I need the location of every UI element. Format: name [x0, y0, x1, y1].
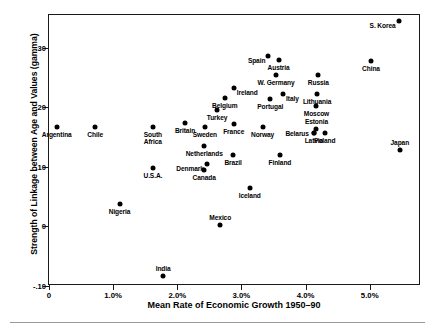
data-point[interactable]: [277, 152, 282, 157]
data-point-label: Belarus: [285, 130, 309, 137]
data-point[interactable]: [215, 107, 220, 112]
data-point[interactable]: [150, 166, 155, 171]
x-axis-tick: [370, 284, 371, 290]
data-point-label: Argentina: [42, 131, 72, 138]
data-point-label: Sweden: [193, 131, 217, 138]
data-point[interactable]: [274, 72, 279, 77]
footer-divider: [10, 322, 425, 323]
data-point-label: Russia: [308, 79, 329, 86]
data-point[interactable]: [247, 185, 252, 190]
data-point-label: Canada: [193, 174, 216, 181]
data-point-label: Finland: [269, 159, 292, 166]
data-point[interactable]: [268, 96, 273, 101]
x-axis-tick: [306, 284, 307, 290]
data-point[interactable]: [231, 152, 236, 157]
data-point[interactable]: [260, 124, 265, 129]
data-point[interactable]: [182, 121, 187, 126]
x-axis-tick-label: 0: [47, 291, 51, 300]
y-axis-tick-label: 0: [42, 222, 46, 231]
data-point[interactable]: [316, 72, 321, 77]
data-point[interactable]: [202, 167, 207, 172]
data-point-label: China: [362, 65, 380, 72]
data-point-label: Nigeria: [109, 208, 131, 215]
data-point[interactable]: [397, 148, 402, 153]
data-point[interactable]: [231, 121, 236, 126]
data-point-label: Turkey: [207, 114, 228, 121]
data-point[interactable]: [276, 58, 281, 63]
x-axis-tick: [113, 284, 114, 290]
data-point-label: U.S.A.: [143, 172, 162, 179]
data-point-label: W. Germany: [257, 79, 294, 86]
data-point[interactable]: [311, 130, 316, 135]
data-point[interactable]: [314, 103, 319, 108]
data-point-label: S. Korea: [370, 22, 396, 29]
data-point[interactable]: [54, 124, 59, 129]
data-point-label: Chile: [87, 131, 103, 138]
data-point[interactable]: [281, 91, 286, 96]
data-point-label: India: [156, 265, 171, 272]
x-axis-tick: [177, 284, 178, 290]
data-point[interactable]: [315, 91, 320, 96]
data-point-label: Brazil: [224, 159, 241, 166]
data-point-label: France: [223, 128, 244, 135]
data-point-label: SouthAfrica: [144, 131, 162, 146]
y-axis-label: Strength of Linkage between Age and Valu…: [29, 13, 39, 275]
data-point[interactable]: [150, 124, 155, 129]
data-point[interactable]: [161, 273, 166, 278]
data-point[interactable]: [204, 161, 209, 166]
x-axis-tick: [49, 284, 50, 290]
data-point-label: Estonia: [305, 118, 328, 125]
plot-frame: S. KoreaChinaSpainAustriaW. GermanyRussi…: [48, 14, 420, 285]
x-axis-tick-label: 4.0%: [297, 291, 315, 300]
data-point-label: Netherlands: [186, 150, 223, 157]
data-point[interactable]: [202, 144, 207, 149]
data-point[interactable]: [266, 54, 271, 59]
data-point[interactable]: [218, 222, 223, 227]
data-point[interactable]: [322, 130, 327, 135]
data-point-label: Ireland: [237, 89, 258, 96]
x-axis-tick: [241, 284, 242, 290]
data-point[interactable]: [222, 95, 227, 100]
data-point-label: Japan: [391, 139, 410, 146]
data-point-label: Mexico: [209, 214, 231, 221]
data-point-label: Iceland: [239, 192, 261, 199]
data-point-label: Italy: [286, 95, 299, 102]
data-point-label: Norway: [251, 131, 274, 138]
data-point[interactable]: [231, 85, 236, 90]
x-axis-tick-label: 2.0%: [168, 291, 186, 300]
data-point-label: Moscow: [304, 110, 329, 117]
data-point[interactable]: [117, 202, 122, 207]
x-axis-tick-label: 1.0%: [104, 291, 122, 300]
x-axis-tick-label: 3.0%: [233, 291, 251, 300]
x-axis-label: Mean Rate of Economic Growth 1950–90: [48, 300, 420, 310]
data-point[interactable]: [396, 18, 401, 23]
plot-area: S. KoreaChinaSpainAustriaW. GermanyRussi…: [49, 15, 419, 284]
data-point-label: Portugal: [257, 103, 283, 110]
data-point-label: Austria: [268, 64, 290, 71]
data-point[interactable]: [93, 124, 98, 129]
y-axis-tick-label: -.10: [33, 282, 46, 291]
data-point-label: Spain: [248, 57, 265, 64]
scatter-plot-figure: S. KoreaChinaSpainAustriaW. GermanyRussi…: [0, 0, 435, 330]
x-axis-tick-label: 5.0%: [361, 291, 379, 300]
data-point-label: Poland: [314, 137, 335, 144]
data-point[interactable]: [202, 124, 207, 129]
data-point[interactable]: [368, 58, 373, 63]
data-point-label: Denmark: [176, 165, 204, 172]
